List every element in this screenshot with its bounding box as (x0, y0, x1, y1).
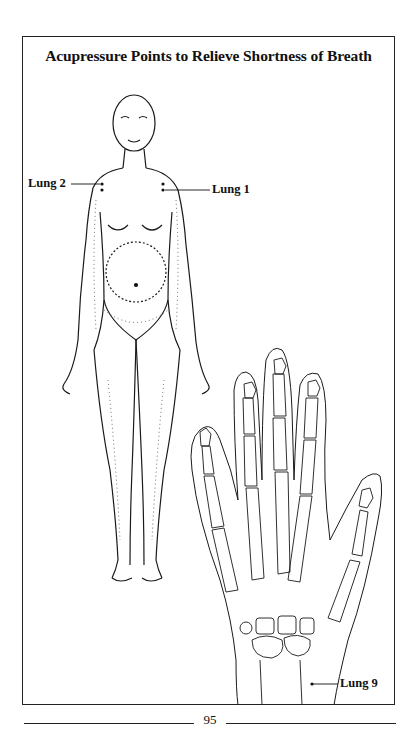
label-lung-1: Lung 1 (212, 182, 250, 197)
page-number: 95 (24, 712, 396, 728)
hand-skeleton-illustration (191, 348, 382, 705)
footer-rule-right (226, 723, 396, 724)
page-footer: 95 (24, 712, 396, 728)
body-figure-illustration (63, 95, 209, 581)
lung-points-body (100, 182, 164, 191)
lung9-point (310, 682, 313, 685)
label-lung-2: Lung 2 (28, 176, 66, 191)
label-lung-9: Lung 9 (340, 676, 378, 691)
illustration-layer (0, 0, 420, 753)
